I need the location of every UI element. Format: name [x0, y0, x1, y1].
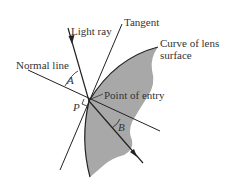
refraction-diagram: Light ray Tangent Curve of lens surface … — [0, 0, 227, 181]
curve-label-line2: surface — [160, 49, 192, 61]
tangent-label: Tangent — [124, 16, 159, 28]
curve-label-line1: Curve of lens — [160, 37, 219, 49]
refracted-arrow-icon — [130, 149, 137, 157]
point-of-entry-label: Point of entry — [104, 89, 165, 101]
angle-b-label: B — [118, 121, 125, 133]
light-ray-label: Light ray — [71, 25, 112, 37]
normal-line-label: Normal line — [16, 59, 69, 71]
right-angle-marker — [82, 99, 87, 106]
lens-body — [85, 47, 158, 177]
perpendicular-label: P — [72, 101, 80, 113]
angle-a-label: A — [66, 74, 74, 86]
